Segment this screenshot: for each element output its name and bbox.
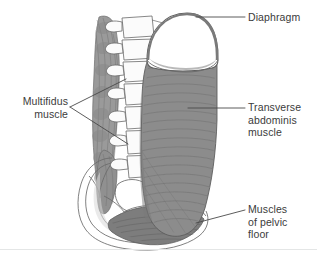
label-multifidus: Multifidus muscle <box>4 95 68 120</box>
spinous-process-4 <box>107 88 125 99</box>
spinous-process-1 <box>105 21 122 32</box>
spinous-process-5 <box>108 111 126 122</box>
label-diaphragm: Diaphragm <box>248 11 300 24</box>
spinous-process-6 <box>109 135 127 146</box>
label-transverse-abdominis: Transverse abdominis muscle <box>248 101 301 139</box>
transverse-abdominis-body <box>141 44 217 236</box>
label-pelvic-floor: Muscles of pelvic floor <box>248 203 287 241</box>
anatomical-figure: Diaphragm Transverse abdominis muscle Mu… <box>0 0 317 261</box>
spinous-process-7 <box>110 159 128 170</box>
spinous-process-3 <box>106 65 124 76</box>
transverse-abdominis-muscle <box>140 44 218 236</box>
spinous-process-2 <box>105 43 123 54</box>
vertebra-body-1 <box>122 16 154 38</box>
